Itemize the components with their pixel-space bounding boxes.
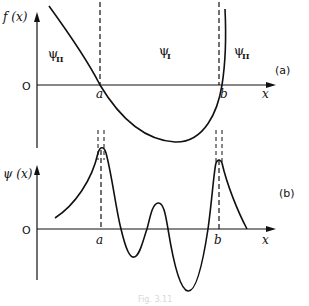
x-axis-arrow-icon <box>266 226 276 232</box>
svg-text:I: I <box>167 51 171 61</box>
origin-label-a: O <box>22 80 31 93</box>
turning-point-b-label-a: b <box>220 87 228 101</box>
potential-curve <box>49 6 226 142</box>
panel-a: f (x) O a b x (a) ψ II ψ I ψ II <box>2 2 290 148</box>
panel-tag-b: (b) <box>279 187 295 200</box>
svg-text:II: II <box>56 54 64 64</box>
turning-point-a-label-b: a <box>96 233 103 247</box>
panel-b: ψ (x) O a b x (b) <box>3 130 295 291</box>
y-axis-label-b: ψ (x) <box>3 167 33 181</box>
x-axis-label-a: x <box>262 87 269 101</box>
svg-text:II: II <box>242 51 250 61</box>
y-axis-label-a: f (x) <box>2 10 28 24</box>
origin-label-b: O <box>22 224 31 237</box>
region-label-middle: ψ I <box>159 43 171 61</box>
figure-caption: Fig. 3.11 <box>138 295 172 304</box>
x-axis-label-b: x <box>262 233 269 247</box>
region-label-right: ψ II <box>234 43 250 61</box>
y-axis-arrow-icon <box>34 165 40 175</box>
y-axis-arrow-icon <box>34 12 40 22</box>
turning-point-a-label-a: a <box>96 87 103 101</box>
figure-canvas: f (x) O a b x (a) ψ II ψ I ψ II <box>0 0 309 306</box>
panel-tag-a: (a) <box>275 64 290 77</box>
region-label-left: ψ II <box>48 46 64 64</box>
turning-point-b-label-b: b <box>214 233 222 247</box>
wavefunction-curve <box>55 148 247 291</box>
